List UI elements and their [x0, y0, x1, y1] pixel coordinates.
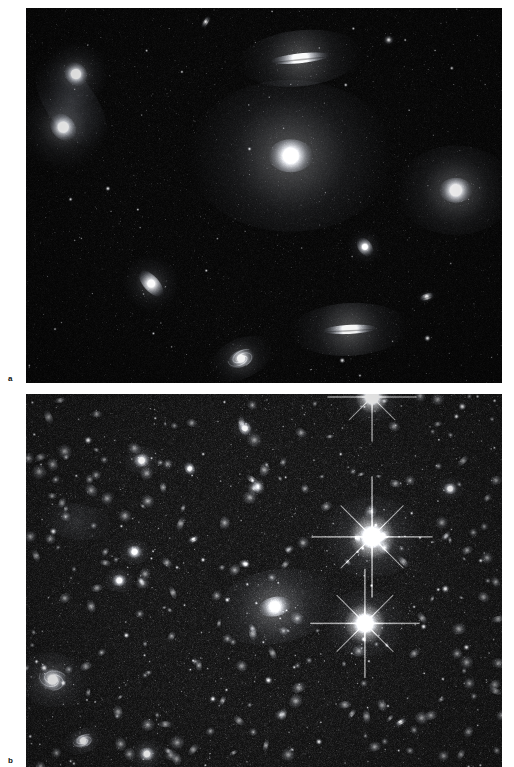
panel-b-canvas: [26, 394, 502, 767]
panel-b-rich-cluster: [26, 394, 502, 767]
panel-a-label: a: [8, 375, 12, 383]
panel-a-canvas: [26, 8, 502, 383]
panel-a-sparse-group: [26, 8, 502, 383]
astronomy-figure: a b: [0, 0, 514, 767]
panel-b-label: b: [8, 757, 13, 765]
